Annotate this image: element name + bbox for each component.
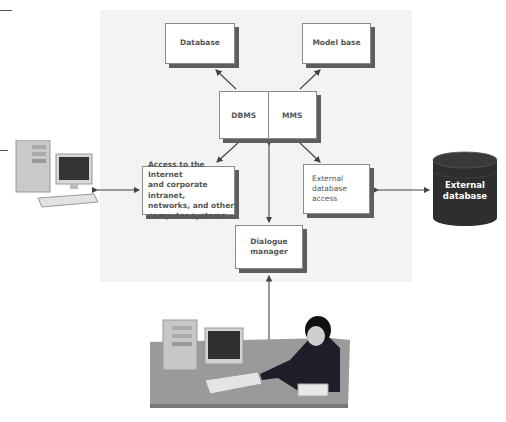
dialogue-manager-node: Dialogue manager: [235, 225, 303, 269]
external-database-label: External database: [433, 180, 497, 202]
external-database-line: External: [433, 180, 497, 191]
dbms-label: DBMS: [231, 111, 256, 120]
internet-access-line: and corporate intranet,: [148, 180, 234, 200]
mms-cell: MMS: [269, 92, 317, 138]
model-base-node: Model base: [302, 23, 371, 64]
external-access-line: External: [312, 174, 347, 184]
dbms-mms-node: DBMS MMS: [219, 91, 317, 139]
internet-access-line: computer systems: [148, 211, 234, 221]
dbms-cell: DBMS: [220, 92, 269, 138]
internet-access-line: networks, and other: [148, 201, 234, 211]
mms-label: MMS: [282, 111, 302, 120]
internet-access-node: Access to the Internet and corporate int…: [142, 166, 235, 215]
database-node: Database: [165, 23, 235, 64]
dialogue-manager-line: Dialogue: [250, 237, 287, 247]
external-access-line: access: [312, 194, 347, 204]
user-workstation-icon: [150, 308, 350, 414]
model-base-label: Model base: [312, 38, 360, 48]
internet-access-line: Access to the Internet: [148, 160, 234, 180]
dialogue-manager-line: manager: [250, 247, 287, 257]
external-database-access-node: External database access: [303, 164, 370, 214]
database-label: Database: [180, 38, 220, 48]
external-database-line: database: [433, 191, 497, 202]
external-access-line: database: [312, 184, 347, 194]
desktop-computer-icon: [12, 140, 100, 212]
